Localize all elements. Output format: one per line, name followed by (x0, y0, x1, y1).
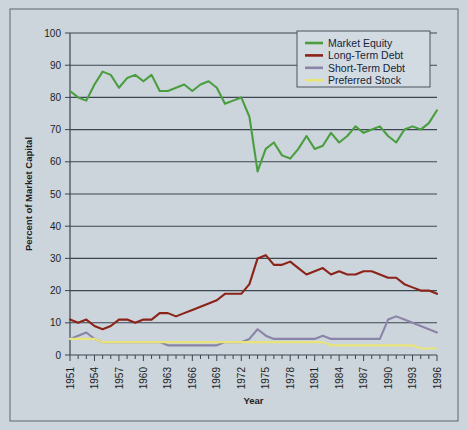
y-tick-label: 90 (50, 60, 62, 71)
y-tick-label: 0 (55, 350, 61, 361)
line-chart: 0102030405060708090100 19511954195719601… (0, 0, 468, 430)
y-tick-label: 20 (50, 285, 62, 296)
x-tick-label: 1972 (236, 367, 247, 390)
x-tick-label: 1960 (138, 367, 149, 390)
x-tick-label: 1963 (162, 367, 173, 390)
x-tick-label: 1984 (334, 367, 345, 390)
legend-label-3[interactable]: Preferred Stock (328, 74, 402, 86)
y-tick-label: 60 (50, 156, 62, 167)
y-tick-label: 40 (50, 221, 62, 232)
y-tick-label: 10 (50, 317, 62, 328)
y-tick-label: 80 (50, 92, 62, 103)
chart-figure: 0102030405060708090100 19511954195719601… (0, 0, 468, 430)
y-tick-label: 70 (50, 124, 62, 135)
y-tick-label: 30 (50, 253, 62, 264)
x-tick-label: 1978 (285, 367, 296, 390)
x-tick-label: 1990 (383, 367, 394, 390)
x-tick-label: 1957 (114, 367, 125, 390)
x-tick-label: 1951 (65, 367, 76, 390)
x-tick-label: 1996 (432, 367, 443, 390)
x-tick-label: 1987 (358, 367, 369, 390)
y-axis-title: Percent of Market Capital (23, 137, 34, 251)
x-tick-label: 1975 (260, 367, 271, 390)
legend-label-0[interactable]: Market Equity (328, 37, 393, 49)
x-axis-title: Year (243, 395, 263, 406)
chart-legend[interactable]: Market EquityLong-Term DebtShort-Term De… (297, 31, 430, 87)
legend-label-1[interactable]: Long-Term Debt (328, 49, 403, 61)
y-tick-label: 100 (44, 28, 61, 39)
x-tick-label: 1954 (89, 367, 100, 390)
x-tick-label: 1966 (187, 367, 198, 390)
x-tick-label: 1993 (407, 367, 418, 390)
legend-label-2[interactable]: Short-Term Debt (328, 62, 405, 74)
x-tick-label: 1969 (211, 367, 222, 390)
x-tick-label: 1981 (309, 367, 320, 390)
y-tick-label: 50 (50, 189, 62, 200)
